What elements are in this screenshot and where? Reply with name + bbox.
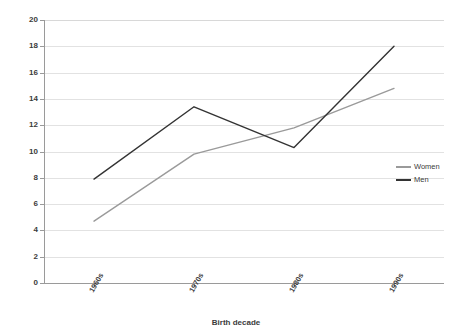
y-axis-tick-label: 6 [10, 200, 38, 208]
y-axis-tick-label: 12 [10, 121, 38, 129]
y-axis-tick-label: 0 [10, 279, 38, 287]
legend-label: Men [414, 176, 429, 184]
y-axis-tick-label: 10 [10, 148, 38, 156]
y-axis-tick-label: 2 [10, 253, 38, 261]
legend-label: Women [414, 163, 440, 171]
chart-legend: WomenMen [396, 160, 440, 186]
series-lines [44, 20, 444, 283]
legend-swatch-icon [396, 166, 411, 168]
x-axis-title: Birth decade [0, 318, 472, 327]
y-axis-tick-label: 18 [10, 42, 38, 50]
line-chart: 02468101214161820 1960s1970s1980s1990s B… [0, 0, 472, 336]
y-axis-tick-label: 8 [10, 174, 38, 182]
y-axis-tick [40, 283, 44, 284]
y-axis-tick-label: 16 [10, 69, 38, 77]
series-line-women [94, 88, 394, 221]
y-axis-tick-label: 20 [10, 16, 38, 24]
legend-swatch-icon [396, 179, 411, 181]
legend-item-men[interactable]: Men [396, 173, 440, 186]
y-axis-tick-label: 4 [10, 226, 38, 234]
series-line-men [94, 46, 394, 179]
x-axis-line [44, 283, 444, 284]
y-axis-tick-label: 14 [10, 95, 38, 103]
legend-item-women[interactable]: Women [396, 160, 440, 173]
